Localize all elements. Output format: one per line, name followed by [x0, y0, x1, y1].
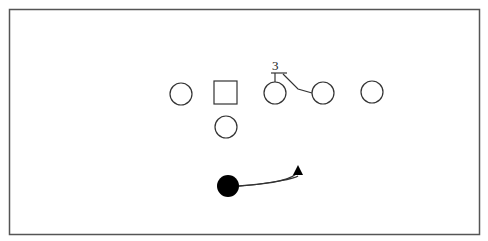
player-circle-4 — [312, 82, 334, 104]
player-number-label: 3 — [272, 58, 279, 73]
assignment-line — [283, 74, 312, 93]
player-circle-3 — [264, 82, 286, 104]
arrowhead-icon — [293, 165, 303, 175]
center-square — [214, 81, 237, 104]
play-diagram: 3 — [0, 0, 488, 241]
quarterback-circle — [215, 116, 237, 138]
diagram-frame — [10, 10, 480, 235]
player-circle-1 — [170, 83, 192, 105]
ball-carrier — [217, 175, 239, 197]
player-circle-5 — [361, 81, 383, 103]
